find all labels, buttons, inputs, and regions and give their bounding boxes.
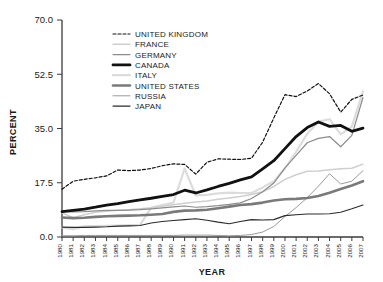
x-tick-label: 1988 [145,243,152,257]
x-tick-label: 2001 [290,243,297,257]
series-line-canada [62,122,363,212]
legend-label: FRANCE [135,40,169,49]
x-tick-label: 2006 [346,243,353,257]
series-lines [62,84,363,236]
x-tick-label: 1986 [123,243,130,257]
x-tick-label: 1983 [89,243,96,257]
y-tick-label: 52.5 [35,69,54,80]
x-tick-label: 1984 [101,243,108,257]
legend-label: CANADA [135,61,170,70]
x-tick-label: 1998 [257,243,264,257]
x-tick-label: 1997 [246,243,253,257]
x-tick-label: 1985 [112,243,119,257]
x-tick-label: 1999 [268,243,275,257]
x-tick-label: 1995 [223,243,230,257]
x-tick-label: 2002 [301,243,308,257]
x-tick-label: 2007 [357,243,364,257]
x-tick-label: 1987 [134,243,141,257]
x-tick-label: 1996 [234,243,241,257]
legend-label: ITALY [135,71,158,80]
x-tick-label: 2004 [324,243,331,257]
x-tick-label: 2000 [279,243,286,257]
x-tick-label: 1994 [212,243,219,257]
y-axis-tick-labels: 0.017.535.052.570.0 [35,14,54,242]
chart-figure: 0.017.535.052.570.0 19801981198219831984… [0,0,383,282]
x-tick-label: 1982 [78,243,85,257]
legend-label: GERMANY [135,51,177,60]
x-axis-title: YEAR [199,267,226,277]
x-tick-label: 1981 [67,243,74,257]
x-tick-label: 1990 [167,243,174,257]
legend-label: UNITED KINGDOM [135,30,208,39]
x-tick-label: 1991 [179,243,186,257]
x-tick-label: 2005 [335,243,342,257]
legend-label: RUSSIA [135,92,166,101]
y-tick-label: 70.0 [35,14,54,25]
x-tick-label: 1989 [156,243,163,257]
y-axis-ticks [57,20,62,237]
x-axis-tick-labels: 1980198119821983198419851986198719881989… [56,243,364,257]
y-tick-label: 35.0 [35,123,54,134]
legend-label: JAPAN [135,102,161,111]
legend-label: UNITED STATES [135,82,200,91]
x-tick-label: 1980 [56,243,63,257]
y-axis-title: PERCENT [8,109,18,155]
x-tick-label: 1992 [190,243,197,257]
y-tick-label: 17.5 [35,177,54,188]
legend: UNITED KINGDOMFRANCEGERMANYCANADAITALYUN… [113,30,208,111]
x-tick-label: 2003 [312,243,319,257]
x-tick-label: 1993 [201,243,208,257]
y-tick-label: 0.0 [40,231,53,242]
series-line-united-kingdom [62,84,363,190]
line-chart: 0.017.535.052.570.0 19801981198219831984… [0,0,383,282]
